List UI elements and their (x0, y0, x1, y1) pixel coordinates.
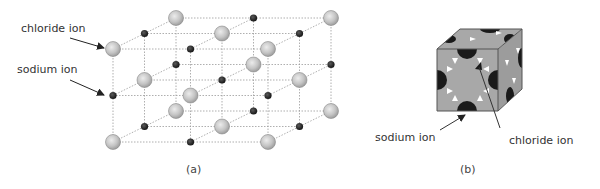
sodium-ion-sphere (141, 30, 148, 37)
chloride-ion-label-b: chloride ion (509, 134, 573, 147)
sodium-ion-sphere (250, 14, 257, 21)
sodium-ion-sphere (250, 107, 257, 114)
sodium-ion-label-a: sodium ion (17, 63, 77, 76)
sodium-ion-sphere (141, 123, 148, 130)
chloride-ion-sphere (169, 104, 184, 119)
sodium-ion-sphere (109, 92, 116, 99)
chloride-ion-sphere (292, 73, 307, 88)
chloride-ion-sphere (106, 135, 121, 150)
nacl-figure: chloride ion sodium ion (a) sodium ion c… (0, 0, 600, 189)
sodium-arrow-b (440, 115, 465, 130)
sodium-ion-label-b: sodium ion (375, 131, 435, 144)
chloride-ion-sphere (169, 11, 184, 26)
chloride-ion-sphere (261, 135, 276, 150)
chloride-ion-sphere (324, 104, 339, 119)
sodium-ion-sphere (218, 76, 225, 83)
sodium-arrow-a (70, 80, 104, 95)
chloride-ion-sphere (215, 119, 230, 134)
chloride-ion-label-a: chloride ion (21, 22, 85, 35)
caption-b: (b) (460, 163, 476, 176)
sodium-ion-sphere (327, 61, 334, 68)
chloride-ion-sphere (324, 11, 339, 26)
lattice-panel-a (106, 11, 339, 150)
chloride-ion-sphere (246, 57, 261, 72)
chloride-arrow-a (70, 38, 104, 48)
chloride-ion-sphere (215, 26, 230, 41)
chloride-ion-sphere (106, 42, 121, 57)
chloride-ion-sphere (137, 73, 152, 88)
lattice-diagram-svg (0, 0, 600, 189)
chloride-ion-sphere (183, 88, 198, 103)
chloride-ion-sphere (261, 42, 276, 57)
cube-front-face (427, 39, 508, 121)
unit-cell-cube (427, 25, 526, 130)
caption-a: (a) (186, 163, 201, 176)
sodium-ion-sphere (172, 61, 179, 68)
sodium-ion-sphere (296, 30, 303, 37)
sodium-ion-sphere (264, 92, 271, 99)
sodium-ion-sphere (296, 123, 303, 130)
sodium-ion-sphere (187, 45, 194, 52)
sodium-ion-sphere (187, 138, 194, 145)
